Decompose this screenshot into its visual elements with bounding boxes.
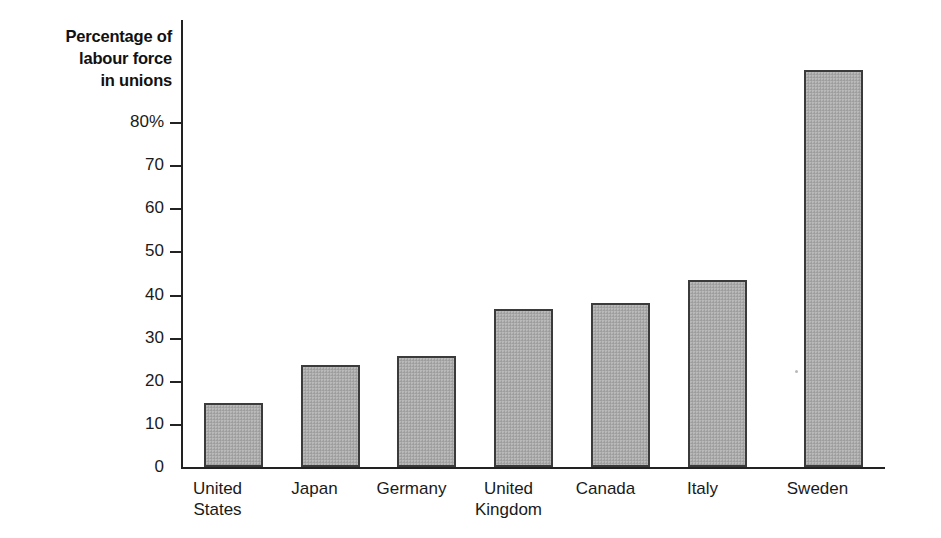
y-tick-label-20: 20 bbox=[32, 372, 164, 389]
page-speck bbox=[795, 370, 798, 373]
y-tick-label-0: 0 bbox=[32, 458, 164, 475]
x-label-italy: Italy bbox=[639, 478, 766, 499]
bar-sweden bbox=[804, 70, 863, 467]
chart-axis-title: Percentage of labour force in unions bbox=[20, 26, 172, 91]
y-tick-label-10: 10 bbox=[32, 415, 164, 432]
y-tick-40 bbox=[170, 295, 181, 297]
bar-chart: Percentage of labour force in unions 80%… bbox=[0, 0, 941, 538]
bar-united-kingdom bbox=[494, 309, 553, 467]
bar-germany bbox=[397, 356, 456, 467]
y-tick-label-50: 50 bbox=[32, 242, 164, 259]
bar-japan bbox=[301, 365, 360, 467]
bar-united-states bbox=[204, 403, 263, 467]
axis-title-line-2: labour force bbox=[20, 48, 172, 70]
bar-italy bbox=[688, 280, 747, 467]
y-tick-label-80: 80% bbox=[32, 113, 164, 130]
y-tick-30 bbox=[170, 338, 181, 340]
y-tick-10 bbox=[170, 424, 181, 426]
y-tick-20 bbox=[170, 381, 181, 383]
y-tick-80 bbox=[170, 122, 181, 124]
y-tick-label-40: 40 bbox=[32, 286, 164, 303]
axis-title-line-3: in unions bbox=[20, 70, 172, 92]
y-tick-70 bbox=[170, 165, 181, 167]
x-axis-line bbox=[181, 467, 885, 469]
bar-canada bbox=[591, 303, 650, 467]
y-tick-label-30: 30 bbox=[32, 329, 164, 346]
x-label-sweden: Sweden bbox=[754, 478, 881, 499]
y-tick-label-60: 60 bbox=[32, 199, 164, 216]
y-tick-60 bbox=[170, 208, 181, 210]
y-tick-label-70: 70 bbox=[32, 156, 164, 173]
y-tick-50 bbox=[170, 251, 181, 253]
bars-layer bbox=[183, 20, 885, 467]
axis-title-line-1: Percentage of bbox=[20, 26, 172, 48]
